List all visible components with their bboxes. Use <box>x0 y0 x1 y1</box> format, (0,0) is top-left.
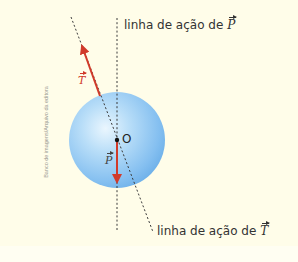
point-o-dot <box>115 138 119 142</box>
image-credit: Banco de imagens/Arquivo da editora <box>43 86 49 178</box>
force-p-label: P <box>105 154 112 167</box>
force-t-label: T <box>78 74 85 87</box>
line-of-action-t-label: linha de ação de T <box>157 224 268 238</box>
point-o-label: O <box>122 132 131 146</box>
force-diagram: O T P linha de ação de P linha de ação d… <box>0 0 298 262</box>
line-of-action-p-label: linha de ação de P <box>124 18 235 32</box>
